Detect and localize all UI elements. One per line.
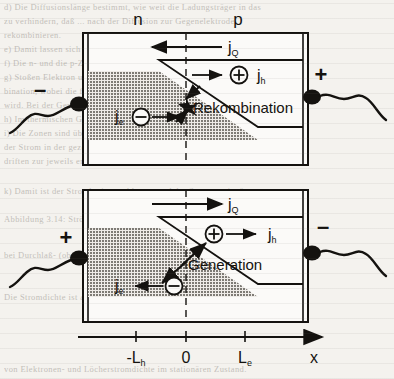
pn-junction-figure: n p jQ jh je	[0, 0, 394, 379]
contact-dot-right-lower	[303, 246, 321, 261]
terminal-sign-right-upper: +	[315, 62, 328, 87]
generation-panel: jQ jh Generation je + –	[10, 190, 386, 322]
axis-tick-label-zero: 0	[182, 349, 191, 366]
contact-dot-left-upper	[70, 97, 88, 112]
contact-dot-left-lower	[70, 251, 88, 266]
terminal-sign-right-lower: –	[317, 214, 329, 239]
x-axis: -Lh 0 Le x	[78, 331, 322, 368]
recombination-panel: n p jQ jh je	[10, 10, 386, 165]
terminal-sign-left-upper: –	[34, 77, 46, 102]
generation-label: Generation	[188, 256, 262, 273]
terminal-sign-left-lower: +	[60, 225, 73, 250]
lead-wire-left-lower	[10, 260, 71, 287]
contact-dot-right-upper	[303, 90, 321, 105]
axis-label-x: x	[310, 349, 318, 366]
lead-wire-right-lower	[320, 251, 386, 276]
region-label-p: p	[233, 10, 242, 29]
lead-wire-left-upper	[10, 106, 71, 133]
recombination-label: Rekombination	[193, 99, 293, 116]
lead-wire-right-upper	[320, 95, 386, 120]
axis-tick-label-Le: Le	[238, 349, 252, 368]
region-label-n: n	[133, 10, 142, 29]
axis-tick-label-minus-Lh: -Lh	[126, 349, 145, 368]
